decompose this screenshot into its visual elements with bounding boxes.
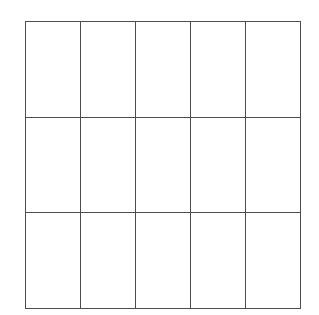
grid-cell[interactable] xyxy=(246,213,301,309)
grid-cell-label xyxy=(26,118,80,213)
grid-cell[interactable] xyxy=(191,117,246,213)
grid-row xyxy=(26,22,301,118)
grid-cell[interactable] xyxy=(26,213,81,309)
grid-row xyxy=(26,213,301,309)
grid-cell-label xyxy=(26,22,80,117)
grid-cell-label xyxy=(81,118,135,213)
grid-row xyxy=(26,117,301,213)
grid-cell[interactable] xyxy=(246,22,301,118)
grid-cell-label xyxy=(136,213,190,308)
grid-cell[interactable] xyxy=(136,117,191,213)
grid-cell[interactable] xyxy=(26,22,81,118)
grid-cell-label xyxy=(191,118,245,213)
grid-cell-label xyxy=(136,118,190,213)
grid-body xyxy=(26,22,301,309)
grid-cell-label xyxy=(191,22,245,117)
grid-cell-label xyxy=(26,213,80,308)
grid-cell[interactable] xyxy=(81,22,136,118)
grid-cell[interactable] xyxy=(136,22,191,118)
grid-cell-label xyxy=(246,213,300,308)
grid-cell[interactable] xyxy=(81,117,136,213)
grid-cell-label xyxy=(81,213,135,308)
grid-figure xyxy=(0,0,319,315)
grid-cell-label xyxy=(81,22,135,117)
grid-cell[interactable] xyxy=(191,213,246,309)
grid-cell[interactable] xyxy=(191,22,246,118)
grid-cell[interactable] xyxy=(26,117,81,213)
grid-cell-label xyxy=(191,213,245,308)
grid-cell[interactable] xyxy=(81,213,136,309)
grid-table xyxy=(25,21,301,309)
grid-cell[interactable] xyxy=(246,117,301,213)
grid-cell[interactable] xyxy=(136,213,191,309)
grid-cell-label xyxy=(136,22,190,117)
grid-cell-label xyxy=(246,22,300,117)
grid-cell-label xyxy=(246,118,300,213)
